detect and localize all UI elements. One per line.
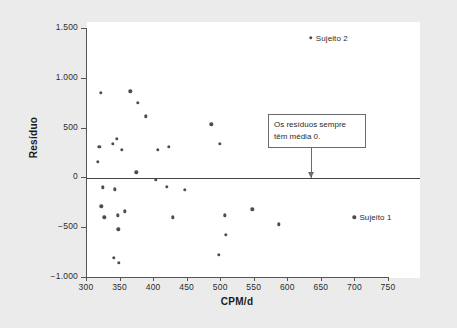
y-tick-label: −500 <box>0 221 78 231</box>
x-tick-label: 450 <box>171 282 203 292</box>
y-tick-label: 1.500 <box>0 22 78 32</box>
x-tick-mark <box>86 277 87 281</box>
y-tick-mark <box>81 227 86 228</box>
y-tick-label: −1.000 <box>0 271 78 281</box>
x-tick-mark <box>254 277 255 281</box>
x-tick-label: 600 <box>271 282 303 292</box>
x-tick-mark <box>187 277 188 281</box>
x-tick-mark <box>120 277 121 281</box>
y-tick-mark <box>81 28 86 29</box>
x-tick-mark <box>287 277 288 281</box>
x-axis-line <box>86 277 388 278</box>
y-tick-label: 0 <box>0 171 78 181</box>
y-tick-label: 1.000 <box>0 72 78 82</box>
x-tick-label: 350 <box>104 282 136 292</box>
y-axis-line <box>86 28 87 278</box>
x-tick-mark <box>153 277 154 281</box>
annotation-line-2: têm média 0. <box>274 131 360 143</box>
x-tick-mark <box>321 277 322 281</box>
x-tick-label: 400 <box>137 282 169 292</box>
y-tick-label: 500 <box>0 122 78 132</box>
y-tick-mark <box>81 177 86 178</box>
x-axis-title: CPM/d <box>87 296 387 307</box>
x-tick-label: 300 <box>70 282 102 292</box>
x-tick-label: 700 <box>338 282 370 292</box>
plot-panel <box>87 22 420 278</box>
y-tick-mark <box>81 78 86 79</box>
residual-scatter-figure: 1.5001.0005000−500−1.000 300350400450500… <box>0 0 457 328</box>
x-tick-mark <box>354 277 355 281</box>
annotation-callout: Os resíduos sempre têm média 0. <box>268 114 366 148</box>
scatter-point-label: Sujeito 1 <box>359 213 391 222</box>
scatter-point-label: Sujeito 2 <box>316 33 348 42</box>
y-axis-title: Resíduo <box>28 93 39 183</box>
x-tick-label: 550 <box>238 282 270 292</box>
annotation-line-1: Os resíduos sempre <box>274 119 360 131</box>
x-tick-label: 500 <box>204 282 236 292</box>
y-tick-mark <box>81 128 86 129</box>
x-tick-mark <box>388 277 389 281</box>
annotation-arrow-icon <box>308 172 314 178</box>
zero-reference-line <box>87 178 420 179</box>
x-tick-label: 750 <box>372 282 404 292</box>
x-tick-label: 650 <box>305 282 337 292</box>
x-tick-mark <box>220 277 221 281</box>
